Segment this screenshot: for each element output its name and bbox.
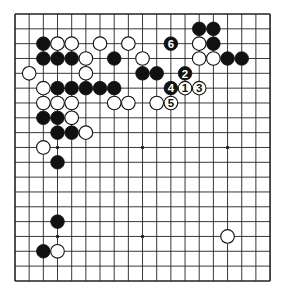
white-stone <box>51 244 65 258</box>
white-stone <box>192 52 206 66</box>
white-stone <box>51 96 65 110</box>
white-stone <box>192 37 206 51</box>
black-stone <box>51 156 65 170</box>
white-stone <box>37 96 51 110</box>
move-1-stone: 1 <box>178 81 192 95</box>
white-stone <box>150 96 164 110</box>
black-stone <box>65 81 79 95</box>
white-stone <box>79 126 93 140</box>
black-stone <box>51 52 65 66</box>
white-stone <box>122 37 136 51</box>
white-stone <box>51 37 65 51</box>
move-number-label: 6 <box>168 38 174 50</box>
black-stone <box>107 81 121 95</box>
star-point <box>141 235 145 239</box>
move-number-label: 1 <box>182 82 189 94</box>
white-stone <box>93 37 107 51</box>
black-stone <box>192 22 206 36</box>
white-stone <box>122 96 136 110</box>
move-number-label: 2 <box>182 68 188 80</box>
white-stone <box>65 96 79 110</box>
white-stone <box>221 230 235 244</box>
black-stone <box>207 22 221 36</box>
black-stone <box>93 81 107 95</box>
stones-layer <box>22 22 248 258</box>
move-4-stone: 4 <box>164 81 178 95</box>
white-stone <box>37 141 51 155</box>
star-point <box>56 235 60 239</box>
black-stone <box>136 67 150 81</box>
black-stone <box>37 37 51 51</box>
move-5-stone: 5 <box>164 96 178 110</box>
black-stone <box>107 52 121 66</box>
star-point <box>141 146 145 150</box>
white-stone <box>65 111 79 125</box>
go-board: 123456 <box>0 0 286 297</box>
black-stone <box>37 244 51 258</box>
black-stone <box>79 81 93 95</box>
black-stone <box>221 52 235 66</box>
white-stone <box>37 81 51 95</box>
black-stone <box>51 126 65 140</box>
white-stone <box>22 67 36 81</box>
white-stone <box>107 96 121 110</box>
black-stone <box>37 111 51 125</box>
white-stone <box>79 52 93 66</box>
black-stone <box>37 52 51 66</box>
move-number-label: 4 <box>168 82 175 94</box>
black-stone <box>207 37 221 51</box>
white-stone <box>79 67 93 81</box>
black-stone <box>150 67 164 81</box>
star-point <box>56 146 60 150</box>
black-stone <box>235 52 249 66</box>
white-stone <box>136 52 150 66</box>
black-stone <box>51 215 65 229</box>
black-stone <box>65 126 79 140</box>
black-stone <box>51 81 65 95</box>
move-3-stone: 3 <box>192 81 206 95</box>
star-point <box>226 146 230 150</box>
white-stone <box>65 37 79 51</box>
move-number-label: 5 <box>168 97 175 109</box>
move-number-label: 3 <box>196 82 202 94</box>
white-stone <box>207 52 221 66</box>
move-6-stone: 6 <box>164 37 178 51</box>
black-stone <box>51 111 65 125</box>
move-2-stone: 2 <box>178 67 192 81</box>
black-stone <box>65 52 79 66</box>
